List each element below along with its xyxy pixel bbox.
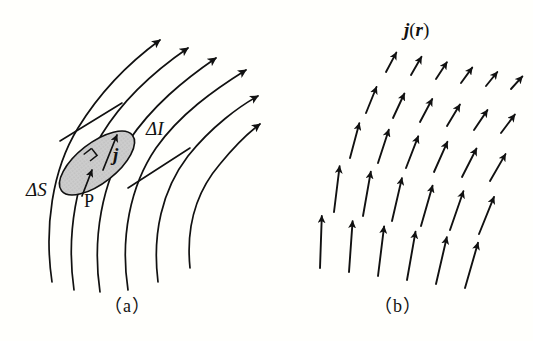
field-arrow — [320, 216, 322, 268]
caption-panel-b: （b） — [374, 297, 422, 315]
field-arrow — [366, 87, 377, 113]
field-arrow — [406, 136, 418, 168]
field-arrow — [378, 130, 389, 163]
field-arrow — [407, 232, 416, 280]
field-arrow — [349, 221, 353, 272]
vector-field-argument: r — [416, 19, 423, 40]
field-arrow — [447, 105, 460, 126]
field-arrow — [486, 72, 497, 86]
caption-panel-a: （a） — [104, 297, 151, 315]
field-arrow — [378, 226, 384, 276]
field-arrow — [421, 186, 433, 226]
figure-current-density: ΔI ΔS j P j(r) （a） （b） — [0, 0, 533, 341]
current-density-label: j — [113, 145, 118, 164]
field-arrow — [462, 149, 477, 178]
delta-s-ellipse — [49, 120, 145, 207]
field-arrow — [436, 62, 447, 79]
field-arrow — [393, 94, 404, 119]
field-arrow — [461, 68, 472, 83]
field-arrow — [420, 99, 432, 122]
delta-i-label: ΔI — [146, 119, 163, 138]
field-arrow — [411, 57, 422, 75]
field-arrow — [511, 76, 522, 89]
field-arrow — [392, 178, 402, 221]
delta-s-surface-group — [49, 120, 145, 207]
field-arrow — [434, 142, 447, 172]
panel-a-group — [49, 40, 260, 292]
flow-line — [156, 96, 258, 282]
field-arrow — [436, 237, 447, 284]
flow-line — [125, 70, 246, 290]
field-arrow — [479, 197, 494, 234]
field-arrow — [386, 53, 396, 72]
field-arrow — [465, 243, 478, 288]
field-arrow — [490, 154, 506, 181]
point-p-label: P — [84, 192, 94, 210]
vector-field-label: j(r) — [404, 20, 429, 39]
delta-s-label: ΔS — [26, 180, 47, 199]
field-arrow — [450, 191, 463, 230]
field-arrow — [363, 172, 371, 216]
flow-line — [189, 124, 260, 268]
field-arrow — [350, 123, 359, 158]
panel-b-group — [320, 53, 522, 288]
figure-canvas — [0, 0, 533, 341]
field-arrow — [334, 166, 340, 212]
field-arrow — [474, 110, 487, 130]
vector-field-close-paren: ) — [423, 19, 429, 40]
field-arrow — [501, 115, 515, 133]
